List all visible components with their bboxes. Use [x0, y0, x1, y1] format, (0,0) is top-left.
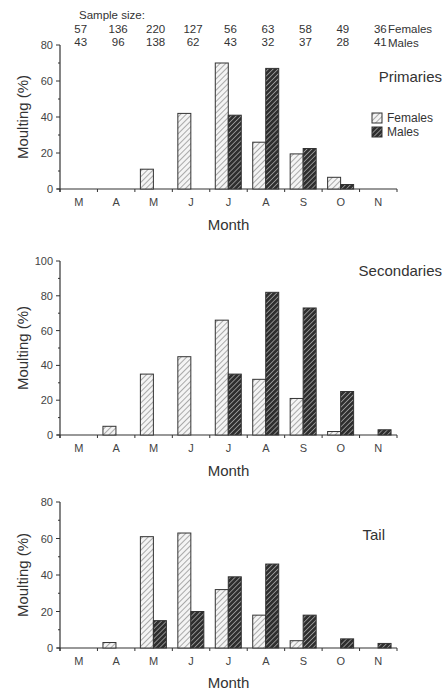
sample-size-label: Sample size:	[79, 9, 145, 21]
x-tick-label: J	[188, 196, 194, 208]
x-tick-label: O	[337, 655, 346, 667]
x-tick-label: M	[149, 655, 158, 667]
legend-swatch-females	[372, 113, 382, 123]
x-tick-label: M	[149, 442, 158, 454]
legend-label-females: Females	[387, 111, 433, 125]
sample-size-male-value: 96	[112, 36, 125, 48]
x-tick-label: S	[300, 196, 307, 208]
bar-males	[191, 612, 204, 649]
x-tick-label: N	[374, 655, 382, 667]
x-tick-label: A	[262, 442, 270, 454]
panel-tail: 020406080MAMJJASONTailMonthMoulting (%)	[14, 496, 397, 691]
sample-size-female-value: 127	[183, 23, 202, 35]
bar-males	[228, 115, 241, 189]
bar-females	[328, 432, 341, 435]
bar-females	[103, 426, 116, 435]
x-tick-label: M	[74, 655, 83, 667]
bar-females	[290, 154, 303, 189]
y-tick-label: 20	[41, 606, 53, 618]
y-tick-label: 40	[41, 359, 53, 371]
sample-size-female-value: 220	[146, 23, 165, 35]
sample-size-female-value: 49	[336, 23, 349, 35]
bar-males	[341, 639, 354, 648]
y-tick-label: 0	[47, 183, 53, 195]
x-axis-title: Month	[208, 674, 250, 691]
bar-females	[178, 533, 191, 648]
bar-males	[228, 374, 241, 435]
bar-males	[153, 621, 166, 648]
sample-size-female-value: 36	[374, 23, 387, 35]
y-axis-title: Moulting (%)	[14, 306, 31, 390]
bar-males	[266, 68, 279, 189]
sample-size-male-value: 62	[187, 36, 200, 48]
sample-size-females-label: Females	[388, 23, 432, 35]
sample-size-male-value: 37	[299, 36, 312, 48]
bar-females	[253, 615, 266, 648]
bar-males	[266, 292, 279, 435]
bar-females	[215, 63, 228, 189]
y-tick-label: 100	[35, 255, 53, 267]
bar-males	[378, 643, 391, 648]
sample-size-males-row: 4396138624332372841	[74, 36, 386, 48]
x-tick-label: J	[226, 655, 232, 667]
sample-size-male-value: 138	[146, 36, 165, 48]
sample-size-male-value: 43	[74, 36, 87, 48]
x-tick-label: J	[226, 442, 232, 454]
bar-males	[303, 615, 316, 648]
x-tick-label: A	[262, 196, 270, 208]
x-tick-label: A	[112, 196, 120, 208]
x-tick-label: J	[188, 655, 194, 667]
bar-females	[140, 537, 153, 648]
sample-size-female-value: 57	[74, 23, 87, 35]
sample-size-block: Sample size: 571362201275663584936 43961…	[74, 9, 432, 49]
bar-males	[341, 185, 354, 190]
x-tick-label: S	[300, 655, 307, 667]
x-tick-label: N	[374, 196, 382, 208]
y-axis-title: Moulting (%)	[14, 75, 31, 159]
bar-males	[266, 564, 279, 648]
x-axis-title: Month	[208, 216, 250, 233]
y-tick-label: 0	[47, 429, 53, 441]
legend-swatch-males	[372, 127, 382, 137]
y-tick-label: 80	[41, 39, 53, 51]
sample-size-male-value: 28	[336, 36, 349, 48]
y-tick-label: 40	[41, 569, 53, 581]
bar-females	[140, 169, 153, 189]
x-tick-label: S	[300, 442, 307, 454]
bar-females	[253, 379, 266, 435]
x-axis-title: Month	[208, 462, 250, 479]
bar-females	[215, 320, 228, 435]
x-tick-label: A	[262, 655, 270, 667]
bar-males	[303, 308, 316, 435]
sample-size-male-value: 43	[224, 36, 237, 48]
bar-females	[328, 177, 341, 189]
sample-size-female-value: 58	[299, 23, 312, 35]
sample-size-male-value: 32	[262, 36, 275, 48]
bar-males	[341, 392, 354, 436]
sample-size-females-row: 571362201275663584936	[74, 23, 386, 35]
bar-females	[103, 643, 116, 648]
y-tick-label: 20	[41, 147, 53, 159]
y-tick-label: 80	[41, 290, 53, 302]
x-tick-label: M	[74, 196, 83, 208]
bar-males	[303, 149, 316, 190]
bar-females	[290, 398, 303, 435]
panel-title: Tail	[362, 526, 385, 543]
sample-size-male-value: 41	[374, 36, 387, 48]
x-tick-label: J	[226, 196, 232, 208]
panel-secondaries: 020406080100MAMJJASONSecondariesMonthMou…	[14, 255, 442, 479]
x-tick-label: M	[149, 196, 158, 208]
y-axis-title: Moulting (%)	[14, 533, 31, 617]
x-tick-label: J	[188, 442, 194, 454]
x-tick-label: A	[112, 655, 120, 667]
sample-size-female-value: 56	[224, 23, 237, 35]
moulting-figure: Sample size: 571362201275663584936 43961…	[0, 0, 443, 691]
sample-size-female-value: 136	[109, 23, 128, 35]
x-tick-label: O	[337, 442, 346, 454]
panel-title: Secondaries	[359, 262, 442, 279]
legend: Females Males	[372, 111, 433, 139]
y-tick-label: 60	[41, 533, 53, 545]
bar-females	[178, 113, 191, 189]
x-tick-label: A	[112, 442, 120, 454]
x-tick-label: O	[337, 196, 346, 208]
